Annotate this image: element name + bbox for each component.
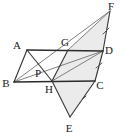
geometry-figure: A B C D E F G H P: [0, 0, 125, 136]
segment-AD: [27, 50, 103, 51]
label-C: C: [96, 79, 103, 91]
label-H: H: [45, 83, 53, 95]
label-D: D: [105, 44, 113, 56]
geometry-canvas: A B C D E F G H P: [0, 0, 125, 136]
label-B: B: [2, 77, 9, 89]
label-E: E: [66, 122, 73, 134]
label-A: A: [13, 39, 21, 51]
label-P: P: [35, 67, 41, 79]
label-G: G: [61, 36, 69, 48]
segment-BC: [14, 81, 95, 82]
label-F: F: [108, 0, 114, 12]
